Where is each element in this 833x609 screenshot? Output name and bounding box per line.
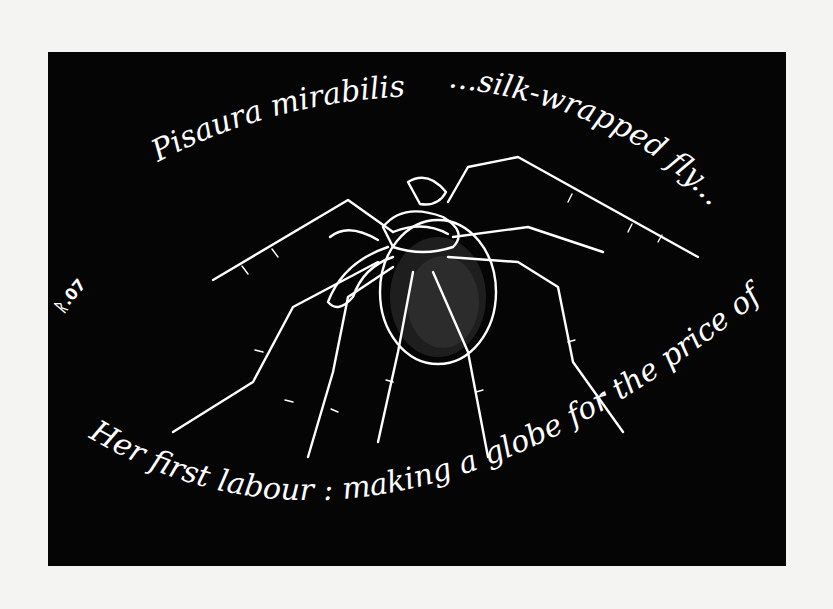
caption-species: Pisaura mirabilis — [144, 68, 405, 168]
artist-signature: ᚱ.07 — [51, 275, 90, 317]
caption-silk-wrapped-fly: ...silk-wrapped fly... — [447, 59, 731, 212]
egg-sac — [380, 220, 496, 364]
illustration-panel: Pisaura mirabilis ...silk-wrapped fly...… — [48, 52, 786, 566]
spider-illustration: Pisaura mirabilis ...silk-wrapped fly...… — [48, 52, 786, 566]
